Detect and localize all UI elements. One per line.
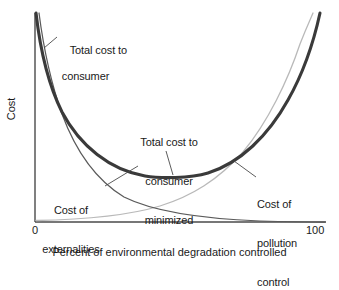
x-axis-tick-0: 0 <box>32 224 38 236</box>
annotation-minimized-line1: Total cost to <box>121 136 217 149</box>
annotation-total-cost-line1: Total cost to <box>70 44 127 56</box>
annotation-minimized-line3: minimized <box>121 214 217 227</box>
y-axis-title: Cost <box>5 87 17 131</box>
annotation-pollution-line1: Cost of <box>257 198 319 211</box>
leader-line-pollution-control <box>234 161 256 177</box>
x-axis-tick-100: 100 <box>306 224 324 236</box>
annotation-externalities-line1: Cost of <box>32 204 110 217</box>
annotation-cost-of-externalities: Cost of externalities <box>32 178 110 282</box>
annotation-pollution-line3: control <box>257 276 319 289</box>
annotation-total-cost-minimized: Total cost to consumer minimized <box>121 110 217 253</box>
annotation-total-cost: Total cost to consumer <box>58 31 127 109</box>
annotation-total-cost-line2: consumer <box>58 70 127 83</box>
leader-line-total-cost <box>44 37 57 48</box>
x-axis-title: Percent of environmental degradation con… <box>0 246 339 258</box>
annotation-minimized-line2: consumer <box>121 175 217 188</box>
